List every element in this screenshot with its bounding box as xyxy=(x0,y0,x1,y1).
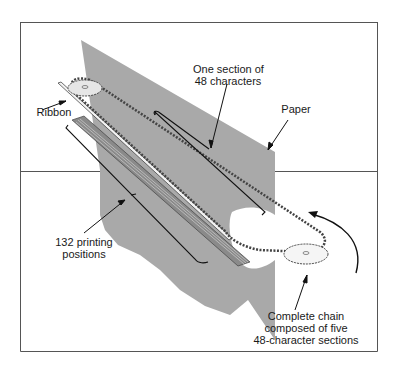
chain-label-line2: composed of five xyxy=(251,323,361,334)
right-sprocket xyxy=(284,244,328,264)
chain-label-line3: 48-character sections xyxy=(251,335,361,346)
section-label-line2: 48 characters xyxy=(193,76,263,87)
section-label-line1: One section of xyxy=(193,64,263,75)
left-sprocket xyxy=(68,80,102,96)
rotation-arrowhead xyxy=(308,211,318,218)
ribbon-label: Ribbon xyxy=(34,107,74,118)
positions-label-line1: 132 printing xyxy=(54,237,114,248)
positions-label-line2: positions xyxy=(54,249,114,260)
rotation-arrow xyxy=(312,214,358,273)
paper-label: Paper xyxy=(276,104,316,115)
chain-label-line1: Complete chain xyxy=(251,311,361,322)
